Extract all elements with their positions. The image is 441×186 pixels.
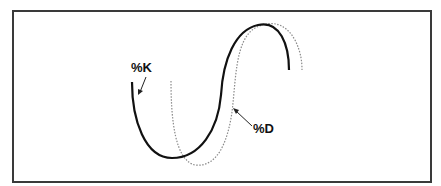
- d-line: [171, 24, 302, 166]
- k-line: [132, 24, 289, 158]
- k-label: %K: [131, 60, 152, 75]
- k-arrow: [140, 77, 146, 92]
- d-arrow: [236, 111, 252, 126]
- d-label: %D: [253, 121, 274, 136]
- stochastic-diagram: [0, 0, 441, 186]
